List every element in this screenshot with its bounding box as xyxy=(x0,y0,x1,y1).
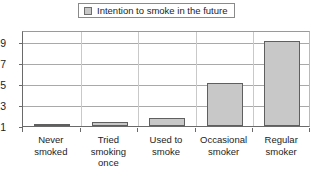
bar-never-smoked xyxy=(34,124,70,126)
x-axis-label-line: smoker xyxy=(196,146,252,158)
x-axis-label-used-to-smoke: Used to smoke xyxy=(137,134,195,176)
bar-used-to-smoke xyxy=(149,118,185,126)
x-axis-labels: Never smoked Tried smoking once Used to … xyxy=(22,134,310,176)
y-tick-mark-3 xyxy=(19,106,23,107)
chart-screenshot: Intention to smoke in the future 9 7 5 3… xyxy=(0,0,322,178)
category-separator-3 xyxy=(196,32,197,126)
y-tick-mark-7 xyxy=(19,64,23,65)
x-axis-label-occasional-smoker: Occasional smoker xyxy=(195,134,253,176)
category-separator-1 xyxy=(81,32,82,126)
x-axis-label-line: Regular xyxy=(253,134,309,146)
x-tick-mark-2 xyxy=(137,128,138,132)
x-tick-mark-4 xyxy=(252,128,253,132)
y-tick-mark-5 xyxy=(19,85,23,86)
y-tick-mark-9 xyxy=(19,43,23,44)
x-axis-label-line: smoked xyxy=(23,146,79,158)
plot-area xyxy=(22,31,310,127)
y-axis-label-1: 1 xyxy=(0,122,6,133)
legend-label: Intention to smoke in the future xyxy=(97,6,227,16)
category-separator-2 xyxy=(138,32,139,126)
x-axis-label-line: smoke xyxy=(138,146,194,158)
x-axis-label-never-smoked: Never smoked xyxy=(22,134,80,176)
y-axis-label-3: 3 xyxy=(0,101,6,112)
x-axis-label-line: Used to xyxy=(138,134,194,146)
x-tick-mark-3 xyxy=(195,128,196,132)
x-axis-label-regular-smoker: Regular smoker xyxy=(252,134,310,176)
x-axis-label-line: Tried xyxy=(81,134,137,146)
x-tick-mark-0 xyxy=(22,128,23,132)
x-axis-label-tried-smoking-once: Tried smoking once xyxy=(80,134,138,176)
x-axis-label-line: smoking xyxy=(81,146,137,158)
bar-tried-smoking-once xyxy=(92,122,128,126)
y-axis-label-7: 7 xyxy=(0,59,6,70)
bar-occasional-smoker xyxy=(207,83,243,126)
legend-swatch-icon xyxy=(84,7,92,15)
x-axis-label-line: Occasional xyxy=(196,134,252,146)
chart-legend: Intention to smoke in the future xyxy=(78,3,235,18)
y-axis-label-9: 9 xyxy=(0,38,6,49)
y-axis-label-5: 5 xyxy=(0,80,6,91)
x-tick-mark-1 xyxy=(80,128,81,132)
x-tick-mark-5 xyxy=(309,128,310,132)
x-axis-label-line: once xyxy=(81,157,137,169)
bar-regular-smoker xyxy=(264,41,300,126)
category-separator-4 xyxy=(253,32,254,126)
x-axis-label-line: smoker xyxy=(253,146,309,158)
x-axis-label-line: Never xyxy=(23,134,79,146)
